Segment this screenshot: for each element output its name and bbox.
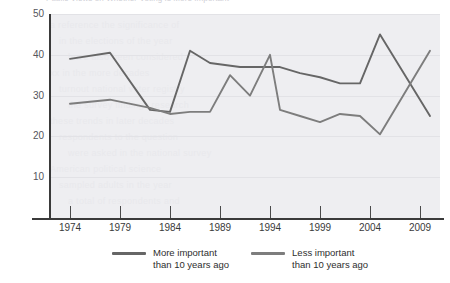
legend-item-more-important[interactable]: More important than 10 years ago [112, 247, 229, 281]
series-lines [0, 0, 450, 283]
legend-swatch-less-important [251, 252, 285, 255]
legend-label-more-important: More important than 10 years ago [153, 247, 229, 270]
legend-swatch-more-important [112, 252, 146, 255]
series-line-more-important [70, 34, 430, 116]
legend-label-less-important: Less important than 10 years ago [292, 247, 368, 270]
chart-legend: More important than 10 years ago Less im… [112, 247, 392, 281]
series-line-less-important [70, 51, 430, 135]
legend-item-less-important[interactable]: Less important than 10 years ago [251, 247, 368, 281]
chart-container: Public Views on Whether Voting Is More I… [0, 0, 450, 283]
